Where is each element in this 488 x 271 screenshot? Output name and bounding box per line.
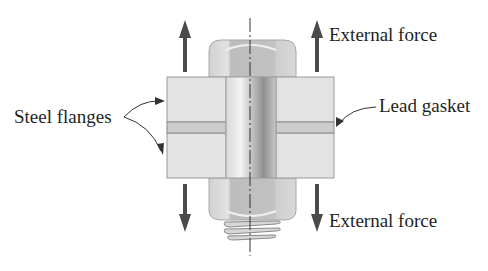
lead-gasket-leader [336, 107, 376, 127]
steel-flange-upper-right [276, 77, 334, 122]
bolt-head [209, 40, 296, 77]
steel-flange-lower-right [276, 133, 334, 178]
lead-gasket-right [276, 122, 334, 133]
steel-flanges-leaders [124, 97, 165, 155]
label-lead-gasket: Lead gasket [379, 95, 471, 116]
nut [209, 178, 296, 220]
label-external-force-bottom: External force [329, 210, 437, 231]
steel-flange-upper-left [167, 77, 226, 122]
force-arrow-up-left [179, 20, 191, 72]
bolt-shaft [226, 77, 276, 178]
force-arrow-down-left [179, 184, 191, 232]
force-arrow-up-right [311, 20, 323, 72]
bolt-threads [224, 221, 280, 240]
steel-flange-lower-left [167, 133, 226, 178]
label-external-force-top: External force [329, 24, 437, 45]
force-arrow-down-right [311, 184, 323, 232]
lead-gasket-left [167, 122, 226, 133]
bolted-joint-diagram: External force External force Steel flan… [0, 0, 488, 271]
label-steel-flanges: Steel flanges [14, 106, 112, 127]
